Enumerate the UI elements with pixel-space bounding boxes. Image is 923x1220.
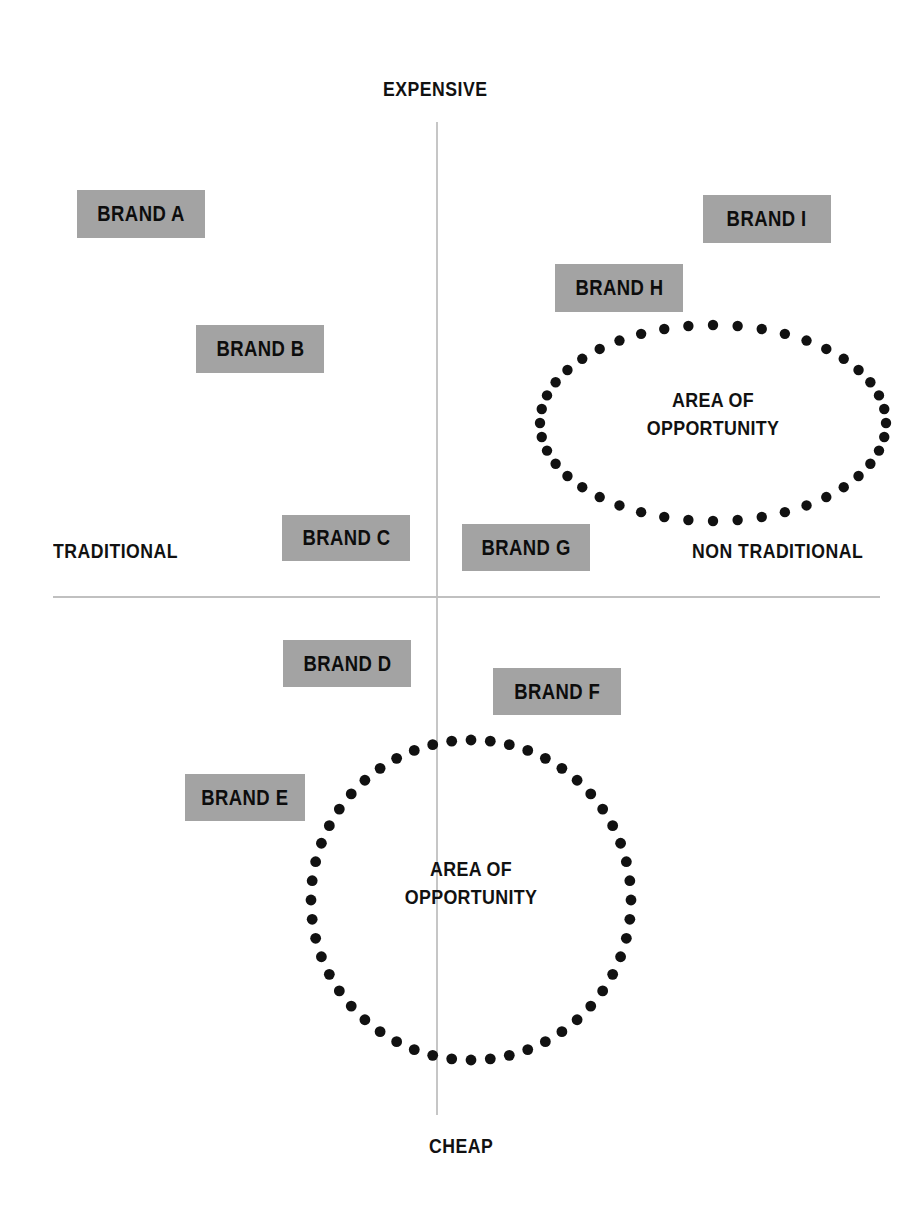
brand-label: BRAND F [514,681,600,703]
opportunity-zone-circle: AREA OF OPPORTUNITY [306,735,636,1065]
horizontal-axis-line [53,596,880,598]
axis-label-traditional: TRADITIONAL [53,540,178,561]
axis-label-non-traditional: NON TRADITIONAL [692,540,863,561]
dotted-circle-shape [306,735,636,1065]
brand-chip-b[interactable]: BRAND B [196,325,324,373]
brand-label: BRAND A [97,203,184,225]
brand-label: BRAND C [302,527,390,549]
brand-chip-g[interactable]: BRAND G [462,524,590,571]
brand-chip-h[interactable]: BRAND H [555,264,683,312]
axis-label-expensive: EXPENSIVE [383,78,488,99]
dotted-ellipse-shape [535,320,891,526]
brand-chip-i[interactable]: BRAND I [703,195,831,243]
brand-chip-e[interactable]: BRAND E [185,774,305,821]
opportunity-zone-ellipse: AREA OF OPPORTUNITY [535,320,891,526]
brand-label: BRAND E [201,787,288,809]
brand-label: BRAND H [575,277,663,299]
brand-chip-d[interactable]: BRAND D [283,640,411,687]
brand-chip-c[interactable]: BRAND C [282,515,410,561]
brand-chip-a[interactable]: BRAND A [77,190,205,238]
brand-label: BRAND I [727,208,807,230]
brand-chip-f[interactable]: BRAND F [493,668,621,715]
brand-label: BRAND G [481,537,570,559]
brand-positioning-map: EXPENSIVE CHEAP TRADITIONAL NON TRADITIO… [0,0,923,1220]
brand-label: BRAND D [303,653,391,675]
axis-label-cheap: CHEAP [429,1135,493,1156]
brand-label: BRAND B [216,338,304,360]
